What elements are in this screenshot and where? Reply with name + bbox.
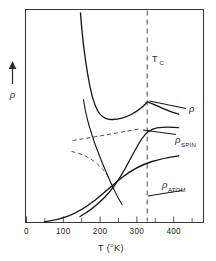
tc-label-symbol: T [152, 54, 158, 64]
y-axis-arrow-icon [10, 63, 16, 85]
rho-curve-label: ρ [188, 103, 195, 114]
rho-spin-curve-label: ρ [174, 134, 181, 145]
resistivity-figure: 0 100 200 300 400 T (°K) ρ T C [0, 0, 216, 261]
x-axis-minor-ticks [45, 218, 192, 223]
rho-atom-curve-label: ρ [161, 179, 168, 190]
x-tick-label-400: 400 [166, 227, 181, 236]
tc-label: T C [152, 54, 165, 66]
x-tick-label-200: 200 [93, 227, 108, 236]
y-axis-label: ρ [9, 89, 16, 100]
x-tick-label-0: 0 [24, 227, 29, 236]
x-axis-title: T (°K) [98, 243, 124, 253]
rho-low-t-branch [84, 100, 123, 205]
figure-svg: 0 100 200 300 400 T (°K) ρ T C [0, 0, 216, 261]
rho-spin-extrapolation-dashed [72, 152, 110, 179]
x-tick-label-100: 100 [56, 227, 71, 236]
x-tick-label-300: 300 [130, 227, 145, 236]
rho-atom-label-group: ρ ATOM [148, 179, 186, 196]
rho-spin-label-group: ρ SPIN [143, 130, 196, 148]
rho-extrapolation-dashed [73, 129, 141, 141]
tc-label-subscript: C [160, 59, 165, 66]
rho-spin-curve-subscript: SPIN [181, 141, 196, 148]
x-tick-labels: 0 100 200 300 400 [24, 227, 181, 236]
rho-atom-curve-subscript: ATOM [168, 186, 186, 193]
